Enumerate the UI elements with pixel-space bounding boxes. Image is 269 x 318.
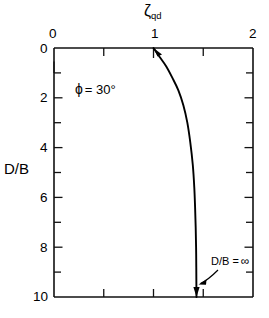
curve-end-arrowhead [193, 287, 199, 297]
phi-symbol: ϕ [75, 81, 83, 97]
xtick-label-0: 0 [49, 26, 57, 41]
asymptote-label-text: D/B = [211, 255, 239, 267]
ytick-label-10: 10 [33, 289, 48, 304]
x-axis-title-subscript: qd [151, 10, 162, 21]
left-axis-ticks [54, 62, 63, 273]
friction-angle-annotation: ϕ= 30° [75, 81, 116, 97]
phi-value: = 30° [85, 82, 116, 97]
y-axis-title: D/B [4, 160, 29, 177]
data-curve [154, 48, 197, 297]
infinity-symbol: ∞ [241, 254, 250, 268]
ytick-label-8: 8 [40, 240, 48, 255]
ytick-label-2: 2 [40, 90, 48, 105]
figure-container: ζqd 0 1 2 0 2 4 6 8 10 D/B ϕ= 30° D/B =∞ [0, 0, 269, 318]
bottom-axis-ticks [104, 289, 204, 297]
xtick-label-1: 1 [151, 26, 159, 41]
ytick-label-6: 6 [40, 190, 48, 205]
right-axis-ticks [245, 73, 254, 272]
asymptote-annotation: D/B =∞ [211, 252, 249, 268]
curve-start-arrowhead [154, 48, 163, 57]
x-axis-title-symbol: ζ [144, 2, 151, 19]
x-axis-title: ζqd [144, 3, 162, 19]
ytick-label-0: 0 [40, 41, 48, 56]
ytick-label-4: 4 [40, 140, 48, 155]
annotation-leader-line [201, 270, 219, 284]
annotation-arrowhead [199, 280, 207, 285]
xtick-label-2: 2 [249, 26, 257, 41]
